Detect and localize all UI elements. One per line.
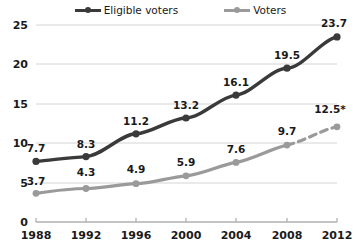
y-axis-tick-20: 20 xyxy=(2,59,28,70)
data-label-voters-2000: 5.9 xyxy=(167,157,205,168)
line-chart: Eligible voters Voters xyxy=(0,0,361,248)
y-axis-tick-15: 15 xyxy=(2,99,28,110)
data-label-voters-1996: 4.9 xyxy=(117,164,155,175)
x-axis-tick-2004: 2004 xyxy=(213,230,259,241)
data-label-eligible-1996: 11.2 xyxy=(117,116,155,127)
data-label-eligible-2000: 13.2 xyxy=(167,100,205,111)
data-label-voters-1992: 4.3 xyxy=(67,167,105,178)
data-label-eligible-1992: 8.3 xyxy=(67,139,105,150)
x-axis-tick-2008: 2008 xyxy=(264,230,310,241)
x-axis-tick-2012: 2012 xyxy=(314,230,360,241)
plot-area xyxy=(0,0,361,248)
x-axis-tick-2000: 2000 xyxy=(163,230,209,241)
data-label-voters-2004: 7.6 xyxy=(217,144,255,155)
data-label-voters-2008: 9.7 xyxy=(268,126,306,137)
data-label-eligible-1988: 7.7 xyxy=(17,143,55,154)
data-label-eligible-2004: 16.1 xyxy=(217,77,255,88)
y-axis-tick-25: 25 xyxy=(2,20,28,31)
data-label-voters-2012: 12.5* xyxy=(311,104,349,115)
x-axis-tick-1996: 1996 xyxy=(113,230,159,241)
x-axis-tick-1988: 1988 xyxy=(13,230,59,241)
y-axis-tick-0: 0 xyxy=(2,217,28,228)
data-label-voters-1988: 3.7 xyxy=(17,176,55,187)
x-axis-tick-1992: 1992 xyxy=(63,230,109,241)
data-label-eligible-2008: 19.5 xyxy=(268,50,306,61)
data-label-eligible-2012: 23.7 xyxy=(315,18,353,29)
x-axis-line xyxy=(36,218,337,222)
